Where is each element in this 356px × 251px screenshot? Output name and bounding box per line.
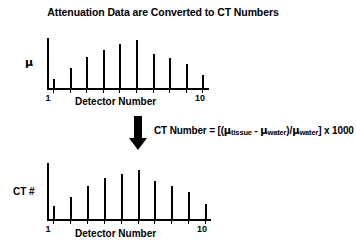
bar-detector-1 xyxy=(53,206,55,219)
formula-suffix: ] x 1000 xyxy=(318,125,354,136)
x-tick-9 xyxy=(188,221,189,224)
x-tick-9 xyxy=(186,90,187,93)
bar-detector-6 xyxy=(138,170,140,219)
attenuation-x-tick-first: 1 xyxy=(41,93,55,103)
conversion-row: CT Number = [(μtissue - μwater)/μwater] … xyxy=(0,114,356,156)
down-block-arrow-icon xyxy=(129,116,147,150)
x-tick-10 xyxy=(205,221,206,224)
bar-detector-2 xyxy=(70,197,72,219)
attenuation-x-tick-last: 10 xyxy=(191,93,209,103)
x-tick-6 xyxy=(136,90,137,93)
x-tick-3 xyxy=(86,90,87,93)
attenuation-x-axis-line xyxy=(47,88,209,90)
bar-detector-9 xyxy=(186,64,188,88)
ct-number-y-axis-label: CT # xyxy=(13,186,35,197)
ct-number-x-axis-line xyxy=(47,219,211,221)
bar-detector-8 xyxy=(171,186,173,219)
ct-number-chart: CT # 1 10 Detector Number xyxy=(0,160,240,246)
bar-detector-8 xyxy=(169,58,171,88)
formula-sub-water-2: water xyxy=(299,128,318,137)
ct-number-x-tick-first: 1 xyxy=(41,224,55,234)
bar-detector-9 xyxy=(188,192,190,219)
formula-mu-1: μ xyxy=(224,125,231,136)
ct-number-x-tick-last: 10 xyxy=(193,224,211,234)
x-tick-8 xyxy=(171,221,172,224)
x-tick-4 xyxy=(103,90,104,93)
x-tick-2 xyxy=(70,221,71,224)
bar-detector-2 xyxy=(70,68,72,88)
x-tick-6 xyxy=(138,221,139,224)
bar-detector-6 xyxy=(136,40,138,88)
x-tick-2 xyxy=(70,90,71,93)
attenuation-y-axis-label: μ xyxy=(25,56,33,69)
bar-detector-10 xyxy=(202,75,204,88)
x-tick-4 xyxy=(104,221,105,224)
formula-sub-water-1: water xyxy=(268,128,287,137)
formula-prefix: CT Number = [( xyxy=(154,125,224,136)
x-tick-5 xyxy=(121,221,122,224)
bar-detector-1 xyxy=(53,79,55,88)
x-tick-7 xyxy=(153,90,154,93)
ct-number-formula: CT Number = [(μtissue - μwater)/μwater] … xyxy=(154,125,354,137)
ct-number-x-axis-label: Detector Number xyxy=(75,228,156,239)
attenuation-x-axis-label: Detector Number xyxy=(75,96,156,107)
x-tick-1 xyxy=(53,90,54,93)
formula-mu-2: μ xyxy=(260,125,267,136)
bar-detector-3 xyxy=(86,57,88,88)
bar-detector-10 xyxy=(205,204,207,219)
bar-detector-7 xyxy=(153,54,155,88)
attenuation-chart: μ 1 10 Detector Number xyxy=(0,36,230,106)
bar-detector-7 xyxy=(154,181,156,219)
bar-detector-3 xyxy=(87,186,89,219)
bar-detector-4 xyxy=(104,178,106,219)
x-tick-1 xyxy=(53,221,54,224)
formula-sub-tissue: tissue xyxy=(231,128,252,137)
x-tick-10 xyxy=(202,90,203,93)
x-tick-5 xyxy=(119,90,120,93)
x-tick-8 xyxy=(169,90,170,93)
bar-detector-5 xyxy=(119,44,121,88)
x-tick-3 xyxy=(87,221,88,224)
attenuation-plot-area xyxy=(47,38,207,88)
page-title: Attenuation Data are Converted to CT Num… xyxy=(28,6,298,19)
x-tick-7 xyxy=(154,221,155,224)
bar-detector-4 xyxy=(103,50,105,88)
bar-detector-5 xyxy=(121,174,123,219)
ct-number-plot-area xyxy=(47,163,207,219)
